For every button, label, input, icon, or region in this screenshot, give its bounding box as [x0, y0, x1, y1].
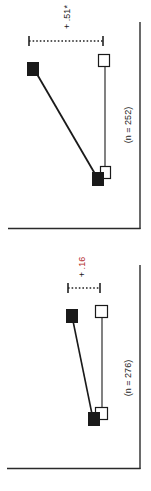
filled-square-marker-lower [88, 412, 100, 426]
chart-panel-top: + .51* (n = 252) [0, 0, 151, 245]
sample-size-label-top: (n = 252) [123, 107, 133, 143]
series-line-filled [72, 316, 93, 419]
chart-top-svg: + .51* (n = 252) [0, 0, 151, 245]
sample-size-label-bottom: (n = 276) [123, 360, 133, 396]
filled-square-marker-upper [66, 309, 78, 323]
difference-bracket [29, 36, 103, 46]
difference-label-top: + .51* [62, 5, 72, 29]
chart-bottom-svg: + .16 (n = 276) [0, 245, 151, 491]
filled-square-marker-upper [27, 62, 39, 76]
svg-text:+ .16: + .16 [77, 257, 87, 277]
difference-bracket [68, 283, 100, 293]
filled-square-marker-lower [92, 172, 104, 186]
difference-plus: + [77, 269, 87, 277]
series-line-filled [34, 69, 98, 179]
open-square-marker-upper [96, 306, 108, 318]
chart-panel-bottom: + .16 (n = 276) [0, 245, 151, 491]
difference-label-bottom: + .16 [77, 257, 87, 277]
difference-value: .16 [77, 257, 87, 270]
open-square-marker-upper [99, 55, 110, 67]
